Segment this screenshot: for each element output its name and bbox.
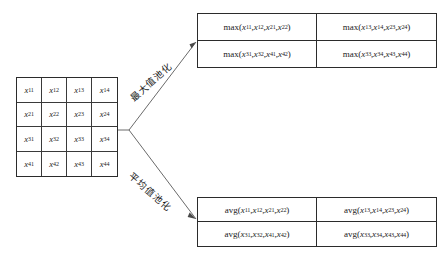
max-output-cell: max(x13,x14,x23,x24) (317, 14, 436, 41)
matrix-cell-sub: 32 (53, 136, 59, 142)
max-output-cell: max(x31,x32,x41,x42) (198, 41, 317, 68)
pooling-function-name: max( (343, 49, 362, 59)
pooling-function-name: max( (223, 49, 242, 59)
avg-output-cell: avg(x33,x34,x43,x44) (317, 222, 436, 246)
avg-output-cell: avg(x31,x32,x41,x42) (198, 222, 317, 246)
matrix-cell: x14 (92, 78, 117, 103)
matrix-cell-sub: 41 (28, 161, 34, 167)
pooling-arg-separator: ) (407, 49, 410, 59)
branch-label-average-pooling: 平均值池化 (126, 169, 175, 214)
branch-label-max-pooling: 最大值池化 (126, 59, 175, 104)
matrix-cell: x34 (92, 127, 117, 152)
matrix-cell-sub: 33 (78, 136, 84, 142)
matrix-cell: x12 (42, 78, 67, 103)
matrix-cell: x44 (92, 152, 117, 177)
pooling-arg-separator: ) (288, 49, 291, 59)
matrix-cell-sub: 13 (78, 87, 84, 93)
matrix-cell: x32 (42, 127, 67, 152)
pooling-arg-separator: ) (286, 229, 289, 239)
pooling-arg-separator: ) (406, 229, 409, 239)
matrix-cell-sub: 31 (28, 136, 34, 142)
pooling-arg-separator: ) (406, 205, 409, 215)
avg-output-cell: avg(x13,x14,x23,x24) (317, 198, 436, 222)
matrix-cell-sub: 43 (78, 161, 84, 167)
max-output-cell: max(x11,x12,x21,x22) (198, 14, 317, 41)
matrix-cell-sub: 44 (104, 161, 110, 167)
input-feature-map-matrix: x11 x12 x13 x14 x21 x22 x23 x24 x31 x32 … (16, 77, 118, 177)
pooling-function-name: avg( (225, 205, 241, 215)
matrix-cell: x41 (17, 152, 42, 177)
pooling-function-name: max( (223, 22, 242, 32)
matrix-cell: x11 (17, 78, 42, 103)
matrix-cell-sub: 21 (28, 111, 34, 117)
pooling-function-name: avg( (344, 205, 360, 215)
pooling-function-name: avg( (344, 229, 360, 239)
pooling-arg-separator: ) (407, 22, 410, 32)
pooling-arg-separator: ) (286, 205, 289, 215)
matrix-cell-sub: 14 (104, 87, 110, 93)
pooling-function-name: avg( (225, 229, 241, 239)
pooling-function-name: max( (343, 22, 362, 32)
matrix-cell: x21 (17, 103, 42, 128)
pooling-diagram: x11 x12 x13 x14 x21 x22 x23 x24 x31 x32 … (0, 0, 445, 263)
average-pooling-output-matrix: avg(x11,x12,x21,x22) avg(x13,x14,x23,x24… (197, 197, 437, 247)
matrix-cell-sub: 12 (53, 87, 59, 93)
avg-output-cell: avg(x11,x12,x21,x22) (198, 198, 317, 222)
matrix-cell-sub: 34 (104, 136, 110, 142)
matrix-cell: x33 (67, 127, 92, 152)
matrix-cell-sub: 23 (78, 111, 84, 117)
max-output-cell: max(x33,x34,x43,x44) (317, 41, 436, 68)
matrix-cell: x31 (17, 127, 42, 152)
matrix-cell: x43 (67, 152, 92, 177)
matrix-cell-sub: 42 (53, 161, 59, 167)
matrix-cell: x22 (42, 103, 67, 128)
matrix-cell-sub: 22 (53, 111, 59, 117)
pooling-arg-separator: ) (288, 22, 291, 32)
matrix-cell: x42 (42, 152, 67, 177)
matrix-cell: x24 (92, 103, 117, 128)
matrix-cell: x23 (67, 103, 92, 128)
max-pooling-output-matrix: max(x11,x12,x21,x22) max(x13,x14,x23,x24… (197, 13, 437, 68)
matrix-cell-sub: 24 (104, 111, 110, 117)
matrix-cell-sub: 11 (28, 87, 33, 93)
matrix-cell: x13 (67, 78, 92, 103)
